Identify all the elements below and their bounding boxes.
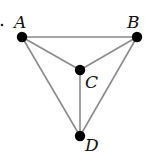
node-label-d: D bbox=[84, 135, 99, 155]
stray-dot bbox=[1, 24, 4, 27]
edges-group bbox=[22, 37, 137, 136]
node-label-a: A bbox=[12, 12, 26, 32]
edge-a-d bbox=[22, 37, 80, 136]
node-label-c: C bbox=[85, 72, 98, 92]
node-b bbox=[132, 32, 142, 42]
node-c bbox=[75, 65, 85, 75]
node-a bbox=[17, 32, 27, 42]
graph-diagram: ABCD bbox=[0, 0, 145, 159]
edge-a-c bbox=[22, 37, 80, 70]
node-d bbox=[75, 131, 85, 141]
edge-b-c bbox=[80, 37, 137, 70]
node-label-b: B bbox=[126, 12, 140, 32]
